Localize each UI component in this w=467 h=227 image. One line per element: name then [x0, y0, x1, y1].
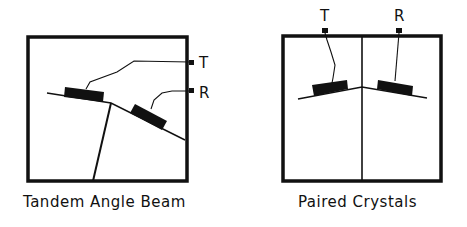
test-block-outline [28, 37, 187, 181]
cable-t [325, 33, 335, 83]
caption-tandem: Tandem Angle Beam [22, 193, 186, 211]
beam-path-line [93, 103, 111, 181]
label-r: R [199, 84, 209, 102]
connector-t [189, 60, 194, 65]
crystal-r [377, 80, 413, 96]
label-t: T [319, 7, 330, 25]
connector-r [396, 28, 402, 33]
diagram-canvas: T R Tandem Angle Beam T R Paired Crystal… [0, 0, 467, 227]
transducer-r [130, 104, 167, 130]
connector-r [189, 88, 194, 93]
cable-r [151, 91, 190, 109]
surface-line [47, 93, 185, 140]
paired-crystals-diagram: T R Paired Crystals [283, 7, 441, 211]
connector-t [322, 28, 328, 33]
tandem-angle-beam-diagram: T R Tandem Angle Beam [22, 37, 209, 211]
caption-paired: Paired Crystals [298, 193, 417, 211]
cable-r [395, 33, 399, 81]
transducer-t [64, 87, 104, 102]
cable-t [86, 61, 190, 89]
label-t: T [198, 54, 209, 72]
label-r: R [394, 7, 404, 25]
